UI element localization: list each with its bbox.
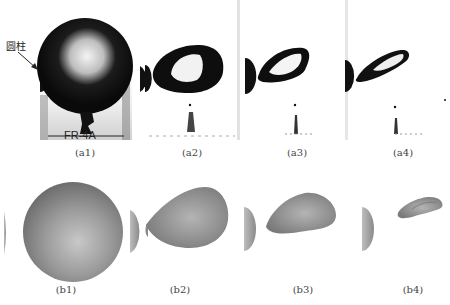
- caption-a1: (a1): [65, 147, 105, 158]
- caption-b3: (b3): [283, 284, 323, 295]
- caption-a3: (a3): [277, 147, 317, 158]
- caption-a4: (a4): [383, 147, 423, 158]
- photo-a3-bubble: [245, 0, 345, 140]
- panel-a3: [245, 0, 345, 140]
- render-b2: [146, 187, 256, 251]
- caption-b4: (b4): [393, 284, 433, 295]
- panel-a4: [345, 0, 450, 140]
- caption-b1: (b1): [46, 284, 86, 295]
- panel-a2: [145, 0, 245, 140]
- photo-a4-bubble: [345, 0, 450, 140]
- render-b3: [266, 193, 374, 251]
- plate-text: FR-4A: [64, 129, 96, 140]
- render-b4: [398, 197, 443, 218]
- caption-b2: (b2): [160, 284, 200, 295]
- photo-a2-bubble: [145, 0, 245, 140]
- caption-a2: (a2): [172, 147, 212, 158]
- annotation-arrow-icon: [14, 50, 74, 90]
- render-b1: [4, 182, 148, 282]
